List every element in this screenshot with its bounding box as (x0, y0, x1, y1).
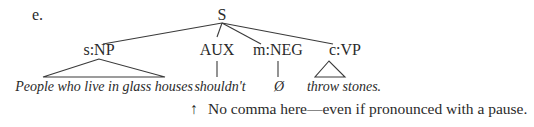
neg-leaf: Ø (273, 79, 285, 94)
vp-node-label: c:VP (329, 41, 361, 58)
neg-node-label: m:NEG (253, 41, 303, 58)
aux-leaf: shouldn't (194, 79, 246, 94)
syntax-tree-diagram: e. S s:NP AUX m:NEG c:VP People who live… (0, 0, 534, 127)
annotation-text: No comma here—even if pronounced with a … (208, 100, 527, 117)
aux-node-label: AUX (200, 41, 235, 58)
example-label: e. (32, 6, 43, 23)
vp-leaf: throw stones. (307, 79, 381, 94)
np-triangle (43, 59, 165, 77)
up-arrow-icon: ↑ (190, 100, 198, 117)
np-leaf: People who live in glass houses (14, 79, 193, 94)
np-node-label: s:NP (83, 41, 114, 58)
edge-root-aux (217, 23, 222, 37)
root-node-label: S (218, 6, 227, 23)
vp-triangle (315, 61, 345, 77)
